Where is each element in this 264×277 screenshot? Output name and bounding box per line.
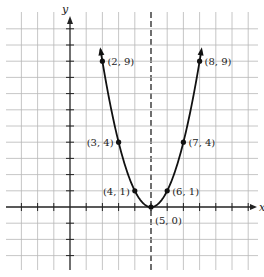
parabola-chart: xy (2, 9)(3, 4)(4, 1)(5, 0)(6, 1)(7, 4)(…	[0, 0, 264, 277]
point-label: (6, 1)	[172, 186, 199, 197]
x-axis-label: x	[259, 201, 264, 214]
y-axis-label: y	[61, 3, 69, 16]
data-point	[181, 140, 186, 145]
data-point	[100, 59, 105, 64]
point-label: (8, 9)	[205, 56, 232, 67]
data-point	[165, 188, 170, 193]
point-label: (3, 4)	[87, 137, 114, 148]
point-label: (2, 9)	[107, 56, 134, 67]
data-points: (2, 9)(3, 4)(4, 1)(5, 0)(6, 1)(7, 4)(8, …	[87, 56, 232, 226]
point-label: (7, 4)	[188, 137, 215, 148]
grid	[6, 12, 258, 270]
curve-arrow-icon	[198, 47, 204, 55]
point-label: (5, 0)	[155, 215, 182, 226]
y-axis-arrow-icon	[67, 16, 73, 24]
data-point	[148, 204, 153, 209]
x-axis-arrow-icon	[250, 204, 257, 210]
data-point	[116, 140, 121, 145]
curve-arrow-icon	[98, 47, 104, 55]
data-point	[132, 188, 137, 193]
point-label: (4, 1)	[103, 186, 130, 197]
data-point	[197, 59, 202, 64]
